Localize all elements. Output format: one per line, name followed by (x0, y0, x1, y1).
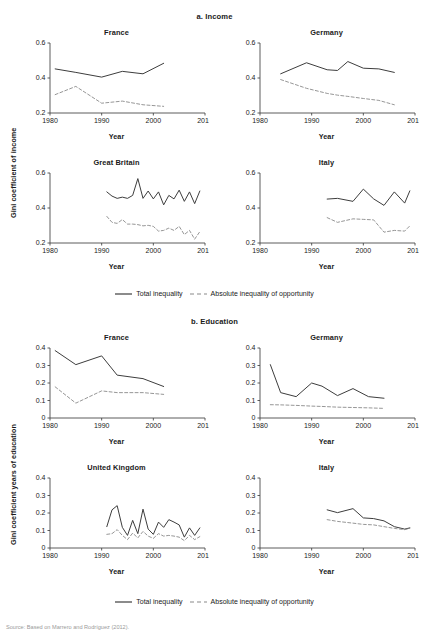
x-tick-label: 1990 (94, 117, 110, 124)
x-tick-label: 2000 (356, 247, 372, 254)
panel-title: France (24, 28, 209, 37)
x-axis-title: Year (234, 262, 419, 271)
y-tick-label: 0.4 (246, 204, 256, 211)
x-tick-label: 2010 (197, 117, 209, 124)
x-tick-label: 1980 (252, 552, 268, 559)
x-tick-label: 1990 (304, 117, 320, 124)
series-line-total-inequality (281, 62, 395, 74)
x-tick-label: 1990 (304, 247, 320, 254)
series-line-absolute-inequality-of-opportunity (55, 86, 164, 106)
inequality-small-multiples-figure: a. Income Gini coefficient of income Fra… (0, 0, 429, 635)
plot-area: 0.20.40.61980199020002010 (234, 169, 419, 257)
x-tick-label: 2000 (146, 117, 162, 124)
x-tick-label: 2000 (146, 422, 162, 429)
y-tick-label: 0.2 (246, 509, 256, 516)
plot-area: 0.20.40.61980199020002010 (24, 169, 209, 257)
plot-svg: 0.20.40.61980199020002010 (234, 39, 419, 127)
x-tick-label: 1990 (94, 552, 110, 559)
plot-area: 00.10.20.30.41980199020002010 (234, 474, 419, 562)
y-tick-label: 0 (42, 544, 46, 551)
plot-svg: 00.10.20.30.41980199020002010 (234, 344, 419, 432)
y-tick-label: 0.2 (246, 379, 256, 386)
legend-item-absolute-inequality-of-opportunity: Absolute inequality of opportunity (190, 290, 314, 297)
x-tick-label: 2010 (407, 247, 419, 254)
x-tick-label: 1980 (252, 422, 268, 429)
series-line-absolute-inequality-of-opportunity (107, 216, 200, 239)
y-tick-label: 0.6 (246, 39, 256, 46)
series-line-total-inequality (55, 63, 164, 77)
x-axis-title: Year (234, 132, 419, 141)
section-title-education: b. Education (0, 317, 429, 326)
y-tick-label: 0.2 (36, 379, 46, 386)
legend-item-total-inequality: Total inequality (115, 598, 182, 605)
x-tick-label: 2000 (146, 552, 162, 559)
x-tick-label: 2010 (407, 117, 419, 124)
y-tick-label: 0.3 (36, 492, 46, 499)
plot-svg: 00.10.20.30.41980199020002010 (234, 474, 419, 562)
panel-title: Germany (234, 28, 419, 37)
x-tick-label: 1990 (94, 422, 110, 429)
plot-svg: 0.20.40.61980199020002010 (234, 169, 419, 257)
plot-area: 00.10.20.30.41980199020002010 (24, 474, 209, 562)
y-tick-label: 0.4 (36, 204, 46, 211)
panel-title: Germany (234, 333, 419, 342)
plot-svg: 00.10.20.30.41980199020002010 (24, 344, 209, 432)
series-line-total-inequality (327, 189, 410, 205)
y-tick-label: 0.3 (246, 492, 256, 499)
y-tick-label: 0.4 (36, 74, 46, 81)
legend-education: Total inequality Absolute inequality of … (0, 598, 429, 605)
series-line-total-inequality (55, 351, 164, 387)
plot-area: 0.20.40.61980199020002010 (24, 39, 209, 127)
panel-title: France (24, 333, 209, 342)
x-axis-title: Year (24, 567, 209, 576)
x-tick-label: 2010 (407, 552, 419, 559)
plot-svg: 0.20.40.61980199020002010 (24, 169, 209, 257)
y-tick-label: 0 (42, 414, 46, 421)
y-tick-label: 0.3 (246, 362, 256, 369)
x-tick-label: 2010 (197, 247, 209, 254)
panel-education-france: France 00.10.20.30.41980199020002010 Yea… (24, 333, 209, 453)
x-axis-title: Year (234, 567, 419, 576)
x-axis-title: Year (234, 437, 419, 446)
x-axis-title: Year (24, 132, 209, 141)
legend-item-total-inequality: Total inequality (115, 290, 182, 297)
x-tick-label: 2010 (407, 422, 419, 429)
series-line-absolute-inequality-of-opportunity (55, 387, 164, 403)
legend-label: Total inequality (136, 290, 182, 297)
y-tick-label: 0.4 (246, 344, 256, 351)
source-note: Source: Based on Marrero and Rodríguez (… (6, 624, 129, 630)
x-axis-title: Year (24, 437, 209, 446)
panel-title: Italy (234, 463, 419, 472)
panel-education-italy: Italy 00.10.20.30.41980199020002010 Year (234, 463, 419, 583)
solid-line-swatch (115, 599, 132, 605)
dashed-line-swatch (190, 291, 207, 297)
y-tick-label: 0.2 (36, 109, 46, 116)
plot-area: 00.10.20.30.41980199020002010 (24, 344, 209, 432)
series-line-absolute-inequality-of-opportunity (270, 405, 384, 409)
dashed-line-swatch (190, 599, 207, 605)
plot-area: 0.20.40.61980199020002010 (234, 39, 419, 127)
series-line-absolute-inequality-of-opportunity (281, 80, 395, 105)
legend-item-absolute-inequality-of-opportunity: Absolute inequality of opportunity (190, 598, 314, 605)
legend-income: Total inequality Absolute inequality of … (0, 290, 429, 297)
y-tick-label: 0.1 (36, 527, 46, 534)
y-tick-label: 0.1 (36, 397, 46, 404)
panel-income-france: France 0.20.40.61980199020002010 Year (24, 28, 209, 148)
series-line-total-inequality (270, 365, 384, 399)
panel-income-italy: Italy 0.20.40.61980199020002010 Year (234, 158, 419, 278)
y-tick-label: 0 (252, 414, 256, 421)
x-tick-label: 1980 (252, 117, 268, 124)
series-line-absolute-inequality-of-opportunity (327, 218, 410, 233)
x-axis-title: Year (24, 262, 209, 271)
panel-income-great-britain: Great Britain 0.20.40.61980199020002010 … (24, 158, 209, 278)
solid-line-swatch (115, 291, 132, 297)
x-tick-label: 1990 (304, 422, 320, 429)
x-tick-label: 1980 (42, 247, 58, 254)
y-tick-label: 0.4 (36, 474, 46, 481)
x-tick-label: 1990 (94, 247, 110, 254)
y-tick-label: 0.3 (36, 362, 46, 369)
x-tick-label: 2000 (356, 552, 372, 559)
panel-income-germany: Germany 0.20.40.61980199020002010 Year (234, 28, 419, 148)
x-tick-label: 2000 (146, 247, 162, 254)
series-line-absolute-inequality-of-opportunity (327, 520, 410, 530)
